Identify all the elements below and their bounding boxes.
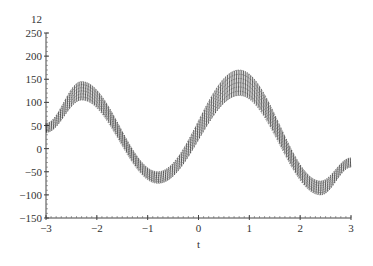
- x-axis-label: t: [197, 238, 200, 250]
- x-tick-label: −2: [91, 222, 103, 234]
- x-tick-label: 2: [297, 222, 303, 234]
- y-tick-label: −100: [19, 189, 42, 201]
- tick-labels: 250200150100500−50−100−15012−3−2−10123t: [19, 13, 354, 250]
- curve-band: [46, 70, 351, 195]
- y-tick-label: 150: [26, 73, 43, 85]
- x-tick-label: 1: [247, 222, 253, 234]
- x-tick-label: −1: [142, 222, 154, 234]
- y-tick-label: 250: [26, 27, 43, 39]
- corner-label: 12: [31, 13, 42, 25]
- x-tick-label: 0: [196, 222, 202, 234]
- x-tick-label: −3: [40, 222, 52, 234]
- x-tick-label: 3: [348, 222, 354, 234]
- y-tick-label: 0: [37, 143, 43, 155]
- chart: 250200150100500−50−100−15012−3−2−10123t: [0, 0, 373, 266]
- y-tick-label: 50: [31, 120, 43, 132]
- y-tick-label: 200: [26, 50, 43, 62]
- y-tick-label: 100: [26, 96, 43, 108]
- y-tick-label: −50: [25, 166, 43, 178]
- y-tick-label: −150: [19, 212, 42, 224]
